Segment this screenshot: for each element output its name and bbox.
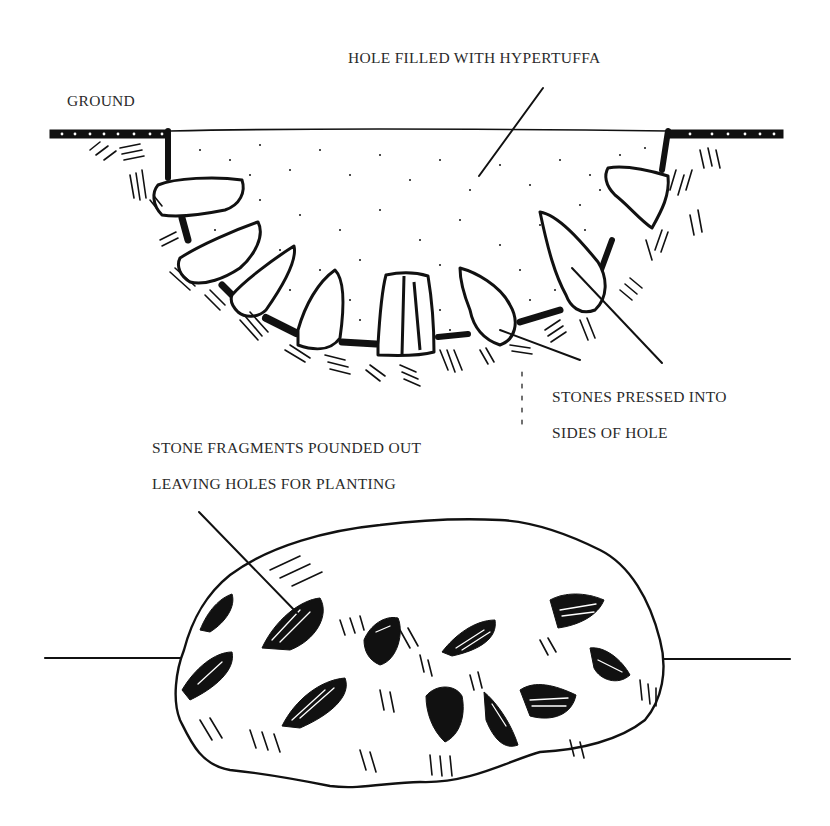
stone-4 — [298, 270, 343, 349]
stone-2 — [178, 222, 260, 283]
finished-stone — [45, 512, 790, 787]
illustration — [0, 0, 830, 826]
label-stones-line1: STONES PRESSED INTO — [552, 389, 727, 405]
label-stones-line2: SIDES OF HOLE — [552, 425, 668, 441]
stone-5 — [378, 273, 434, 356]
hole-cross-section — [50, 88, 783, 432]
hole-leader-line — [479, 88, 543, 176]
label-ground: GROUND — [67, 93, 135, 109]
label-fragments-line2: LEAVING HOLES FOR PLANTING — [152, 476, 396, 492]
label-hole-filled: HOLE FILLED WITH HYPERTUFFA — [348, 50, 600, 66]
ground-surface-right — [668, 130, 783, 138]
stone-1 — [154, 178, 243, 216]
figure-canvas: HOLE FILLED WITH HYPERTUFFA GROUND STONE… — [0, 0, 830, 826]
ground-surface-left — [50, 130, 170, 138]
stone-7 — [540, 212, 605, 312]
label-fragments-line1: STONE FRAGMENTS POUNDED OUT — [152, 440, 421, 456]
stone-8 — [606, 167, 668, 228]
stone-outline — [176, 519, 664, 787]
stones-leader-line-1 — [572, 268, 662, 363]
